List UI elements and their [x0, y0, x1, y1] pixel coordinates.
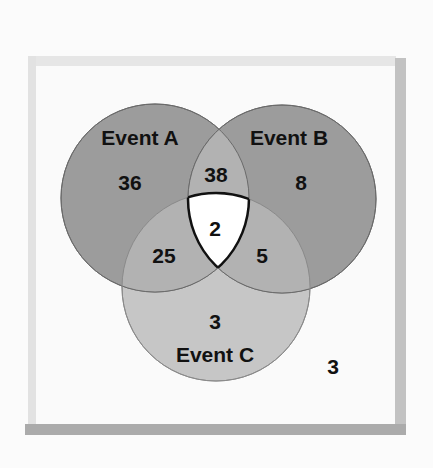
value-ac-only: 25: [152, 244, 176, 267]
value-ab-only: 38: [204, 163, 228, 186]
label-event-b: Event B: [250, 126, 328, 149]
venn-diagram: Event A Event B Event C 36 38 8 2 25 5 3…: [0, 0, 433, 468]
value-outside: 3: [327, 355, 339, 378]
value-b-only: 8: [295, 171, 307, 194]
value-abc: 2: [209, 217, 221, 240]
value-bc-only: 5: [256, 244, 268, 267]
label-event-c: Event C: [176, 343, 254, 366]
label-event-a: Event A: [101, 126, 178, 149]
value-a-only: 36: [118, 171, 141, 194]
value-c-only: 3: [209, 310, 221, 333]
